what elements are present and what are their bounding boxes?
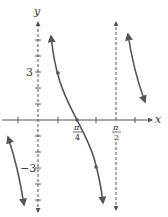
x-axis-label: x: [155, 113, 162, 126]
point-3pi8-neg3: [94, 165, 98, 169]
y-tick-label-3: 3: [26, 66, 33, 79]
y-axis: y 3 −3: [20, 5, 41, 212]
graph: x y 3 −3 π 4 π 2: [0, 0, 168, 217]
point-pi4-0: [75, 118, 79, 122]
svg-text:4: 4: [75, 133, 80, 142]
curve-branch-right: [128, 34, 145, 102]
x-tick-label-pi-over-2: π 2: [112, 122, 121, 142]
x-tick-label-pi-over-4: π 4: [73, 122, 82, 142]
y-axis-label: y: [33, 5, 41, 18]
svg-text:π: π: [112, 123, 119, 132]
point-pi8-3: [56, 71, 60, 75]
svg-text:2: 2: [114, 133, 119, 142]
y-tick-label-neg3: −3: [20, 162, 36, 175]
